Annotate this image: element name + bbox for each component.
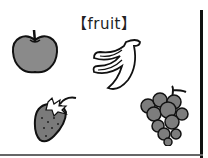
- strawberry-icon: [32, 96, 82, 144]
- apple-icon: [10, 28, 60, 78]
- frame-border-right: [200, 10, 203, 158]
- page-title: 【fruit】: [72, 12, 137, 33]
- frame-border-bottom: [0, 154, 203, 156]
- grapes-icon: [138, 84, 194, 146]
